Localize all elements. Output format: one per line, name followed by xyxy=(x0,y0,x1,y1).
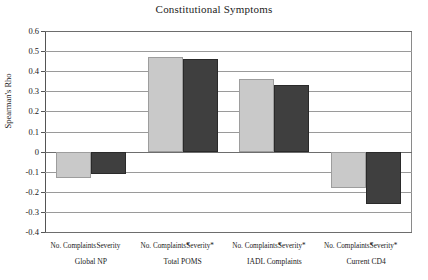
y-tick-label: 0 xyxy=(5,148,39,157)
x-tick-label: Severity* xyxy=(170,243,231,250)
chart-title: Constitutional Symptoms xyxy=(0,3,428,15)
gridline xyxy=(45,132,412,133)
bar xyxy=(239,79,274,151)
gridline xyxy=(45,111,412,112)
x-tick-label: Severity* xyxy=(261,243,322,250)
bar xyxy=(56,152,91,178)
gridline xyxy=(45,51,412,52)
y-tick-mark xyxy=(41,71,45,72)
bar xyxy=(183,59,218,151)
gridline xyxy=(45,71,412,72)
y-tick-label: -0.4 xyxy=(5,228,39,237)
y-tick-mark xyxy=(41,31,45,32)
bar xyxy=(274,85,309,151)
y-tick-label: 0.6 xyxy=(5,27,39,36)
y-tick-label: -0.3 xyxy=(5,208,39,217)
gridline xyxy=(45,31,412,32)
x-group-label: Global NP xyxy=(45,258,137,266)
y-tick-mark xyxy=(41,192,45,193)
bar xyxy=(91,152,126,174)
y-tick-label: 0.4 xyxy=(5,67,39,76)
y-tick-label: 0.1 xyxy=(5,128,39,137)
y-tick-mark xyxy=(41,172,45,173)
y-tick-mark xyxy=(41,152,45,153)
y-tick-label: -0.2 xyxy=(5,188,39,197)
gridline xyxy=(45,91,412,92)
y-tick-label: 0.3 xyxy=(5,87,39,96)
y-tick-mark xyxy=(41,91,45,92)
x-group-label: Total POMS xyxy=(137,258,229,266)
gridline xyxy=(45,212,412,213)
x-tick-label: Severity xyxy=(78,243,139,250)
y-tick-mark xyxy=(41,232,45,233)
y-tick-mark xyxy=(41,111,45,112)
gridline xyxy=(45,232,412,233)
y-tick-label: -0.1 xyxy=(5,168,39,177)
chart-container: Constitutional Symptoms Spearman's Rho 0… xyxy=(0,0,428,280)
gridline xyxy=(45,192,412,193)
y-tick-mark xyxy=(41,132,45,133)
y-tick-label: 0.5 xyxy=(5,47,39,56)
x-tick-label: Severity* xyxy=(353,243,414,250)
plot-area: 0.60.50.40.30.20.10-0.1-0.2-0.3-0.4 xyxy=(45,31,412,232)
bar xyxy=(331,152,366,188)
y-tick-mark xyxy=(41,51,45,52)
bar xyxy=(148,57,183,151)
x-group-label: Current CD4 xyxy=(320,258,412,266)
x-group-label: IADL Complaints xyxy=(229,258,321,266)
y-tick-label: 0.2 xyxy=(5,107,39,116)
bar xyxy=(366,152,401,204)
y-tick-mark xyxy=(41,212,45,213)
